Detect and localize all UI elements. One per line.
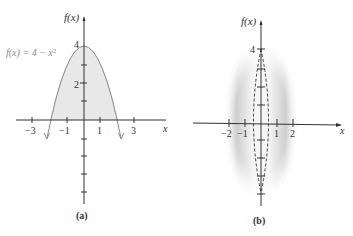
caption-a: (a) [76,210,88,222]
y-axis-label: f(x) [64,11,80,24]
figure-canvas: f(x) 4 2 f(x) = 4 − x² −3 −1 1 3 x (a) [0,0,353,236]
x-tick-label-2: 2 [290,128,295,139]
function-label: f(x) = 4 − x² [6,47,57,59]
x-tick-label-neg3: −3 [25,125,36,136]
x-axis-label: x [162,123,168,134]
y-tick-label-2: 2 [74,79,79,90]
x-tick-label-1: 1 [97,125,102,136]
y-tick-label-4: 4 [74,39,79,50]
caption-b: (b) [253,215,265,227]
x-tick-label-neg2: −2 [221,128,232,139]
y-axis-arrow-icon [83,16,86,21]
x-tick-label-neg1: −1 [59,125,70,136]
x-tick-label-neg1: −1 [237,128,248,139]
x-axis-label: x [339,125,345,136]
arrow-right-icon [119,133,125,139]
y-axis-label: f(x) [241,15,257,28]
figure-a: f(x) 4 2 f(x) = 4 − x² −3 −1 1 3 x (a) [6,11,168,222]
y-axis-arrow-icon [260,20,263,25]
x-tick-label-1: 1 [274,128,279,139]
x-tick-label-3: 3 [131,125,136,136]
figure-b: f(x) 4 −2 −1 1 2 x (b) [193,15,345,227]
arrow-left-icon [44,133,50,139]
y-tick-label-4: 4 [250,44,255,55]
